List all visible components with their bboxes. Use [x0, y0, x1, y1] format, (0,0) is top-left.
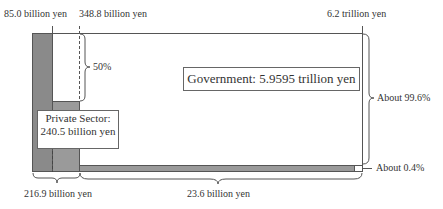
gov-share-brace — [363, 34, 374, 164]
label-23-6-billion: 23.6 billion yen — [187, 189, 250, 199]
label-50-percent: 50% — [93, 62, 111, 72]
bottom-left-brace — [33, 173, 80, 183]
private-share-box — [355, 166, 363, 172]
label-85-billion: 85.0 billion yen — [4, 9, 67, 19]
government-area — [33, 34, 363, 172]
label-private-share: About 0.4% — [376, 163, 424, 173]
private-label-line2: 240.5 billion yen — [38, 125, 118, 138]
private-label-line1: Private Sector: — [38, 112, 118, 125]
label-348-billion: 348.8 billion yen — [79, 9, 147, 19]
bottom-strip — [80, 166, 355, 172]
budget-area-diagram — [0, 0, 443, 209]
private-label-box: Private Sector: 240.5 billion yen — [37, 110, 119, 149]
government-label: Government: 5.9595 trillion yen — [187, 71, 355, 86]
label-6-2-trillion: 6.2 trillion yen — [327, 9, 386, 19]
government-label-box: Government: 5.9595 trillion yen — [183, 67, 360, 91]
label-gov-share: About 99.6% — [377, 93, 430, 103]
label-216-billion: 216.9 billion yen — [24, 189, 92, 199]
left-dark-bar — [33, 34, 53, 172]
bottom-right-brace — [80, 173, 362, 184]
